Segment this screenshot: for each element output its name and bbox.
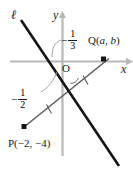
- slope-ell-denominator: 3: [68, 41, 77, 52]
- x-axis: [10, 58, 133, 65]
- coordinate-figure: ℓ y x O Q(a, b) P(−2, −4) − 1 3 − 1 2: [0, 0, 133, 170]
- slope-ell-numerator: 1: [68, 29, 77, 40]
- slope-label-line-ell: − 1 3: [61, 29, 77, 51]
- slope-pq-fraction: 1 2: [18, 88, 27, 110]
- leader-line-slope-ell: [52, 40, 61, 57]
- slope-pq-denominator: 2: [18, 100, 27, 111]
- y-axis-label: y: [53, 9, 58, 21]
- x-axis-label: x: [121, 63, 126, 75]
- slope-pq-numerator: 1: [18, 88, 27, 99]
- slope-label-line-pq: − 1 2: [11, 88, 27, 110]
- point-p-marker: [22, 124, 27, 129]
- line-ell-label: ℓ: [11, 8, 16, 21]
- leader-line-slope-pq: [41, 72, 57, 92]
- point-q-label: Q(a, b): [88, 35, 120, 46]
- origin-label: O: [62, 63, 70, 74]
- point-p-label: P(−2, −4): [8, 138, 50, 149]
- slope-pq-minus: −: [11, 93, 17, 105]
- point-q-marker: [101, 57, 106, 62]
- angle-arc-marker: [71, 78, 79, 84]
- slope-ell-minus: −: [61, 34, 67, 46]
- point-q-close: ): [116, 34, 120, 46]
- slope-ell-fraction: 1 3: [68, 29, 77, 51]
- point-q-text: Q(: [88, 34, 100, 46]
